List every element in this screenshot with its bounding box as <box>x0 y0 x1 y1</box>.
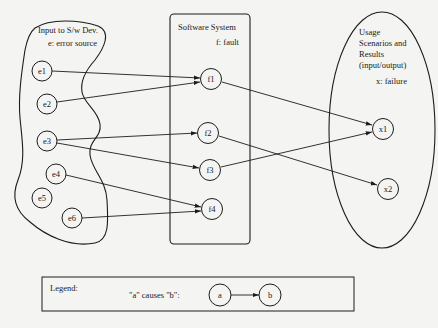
node-e2: e2 <box>37 94 57 114</box>
node-label: e3 <box>43 136 51 146</box>
edge-e6-f4 <box>82 211 201 218</box>
legend-node-a-label: a <box>218 290 222 300</box>
node-e6: e6 <box>62 208 82 228</box>
edge-f3-x1 <box>221 132 372 167</box>
edge-e1-f1 <box>52 71 200 78</box>
node-label: e1 <box>38 66 46 76</box>
node-f2: f2 <box>198 123 219 144</box>
node-label: f2 <box>204 128 211 138</box>
node-f1: f1 <box>201 69 222 90</box>
node-e1: e1 <box>32 61 52 81</box>
node-label: f3 <box>206 165 213 175</box>
edge-e4-f4 <box>66 175 201 207</box>
node-label: e2 <box>43 99 51 109</box>
input-region-title: Input to S/w Dev. <box>38 25 98 35</box>
usage-title-line-2: Scenarios and <box>359 38 407 48</box>
usage-title-line-3: Results <box>359 49 384 59</box>
node-label: e5 <box>38 193 46 203</box>
input-region-subtitle: e: error source <box>48 38 97 48</box>
node-f3: f3 <box>200 160 221 181</box>
fault-causality-diagram: Input to S/w Dev. e: error source Softwa… <box>0 0 438 328</box>
node-label: x1 <box>379 124 388 134</box>
software-region-subtitle: f: fault <box>216 37 240 47</box>
node-label: x2 <box>384 184 393 194</box>
node-x1: x1 <box>373 119 394 140</box>
usage-title-line-1: Usage <box>359 27 380 37</box>
legend-node-b-label: b <box>268 290 272 300</box>
usage-region-subtitle: x: failure <box>376 76 407 86</box>
edge-f2-x2 <box>219 136 377 185</box>
edge-e3-f3 <box>57 143 199 168</box>
node-e4: e4 <box>46 164 66 184</box>
legend: Legend: "a" causes "b": a b <box>42 277 354 311</box>
node-x2: x2 <box>378 179 399 200</box>
legend-description: "a" causes "b": <box>129 290 180 300</box>
node-label: f1 <box>207 74 214 84</box>
input-region-blob <box>15 21 108 244</box>
legend-title: Legend: <box>50 283 78 293</box>
edge-f1-x1 <box>222 82 372 125</box>
node-label: e4 <box>52 169 61 179</box>
legend-box <box>42 277 354 311</box>
node-label: e6 <box>68 213 76 223</box>
node-label: f4 <box>208 204 216 214</box>
node-f4: f4 <box>202 199 223 220</box>
edge-e2-f1 <box>57 82 200 102</box>
edges <box>52 71 377 218</box>
usage-title-line-4: (input/output) <box>359 60 406 70</box>
node-e5: e5 <box>32 188 52 208</box>
software-region-title: Software System <box>178 22 236 32</box>
node-e3: e3 <box>37 131 57 151</box>
edge-e3-f2 <box>57 133 197 140</box>
